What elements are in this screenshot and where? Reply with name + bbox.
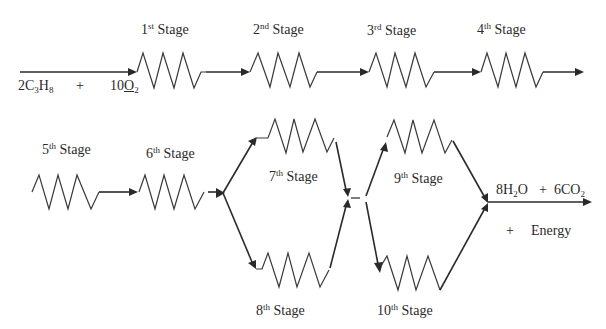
stage-label-10: 10th Stage bbox=[377, 304, 433, 318]
arrow-branch-to-8 bbox=[223, 193, 256, 269]
zigzag-stage-10 bbox=[381, 256, 440, 290]
arrow-merge-to-9 bbox=[366, 142, 388, 196]
product-arrow bbox=[488, 198, 592, 206]
reaction-diagram: 2C3H8 + 10O2 1st Stage 2nd Stage 3rd Sta… bbox=[0, 0, 606, 329]
reactant-arrow bbox=[20, 68, 137, 76]
arrow-7-to-merge bbox=[336, 142, 351, 197]
stage-label-8: 8th Stage bbox=[256, 304, 305, 318]
stage-label-3: 3rd Stage bbox=[367, 24, 416, 38]
arrow-2-3 bbox=[317, 68, 369, 76]
arrow-3-4 bbox=[434, 68, 481, 76]
arrow-4-out bbox=[543, 68, 584, 76]
zigzag-stage-5 bbox=[32, 175, 99, 209]
stage-label-5: 5th Stage bbox=[42, 143, 91, 157]
arrow-5-6 bbox=[99, 188, 138, 196]
arrow-8-to-merge bbox=[330, 199, 351, 268]
arrow-9-to-product bbox=[453, 141, 488, 203]
stage-label-4: 4th Stage bbox=[477, 23, 526, 37]
product-water: 8H2O bbox=[496, 183, 528, 197]
reactant-oxygen: 10O2 bbox=[110, 79, 139, 93]
zigzag-stage-7 bbox=[257, 119, 334, 153]
zigzag-stage-3 bbox=[369, 53, 434, 87]
arrow-10-to-product bbox=[440, 203, 488, 290]
zigzag-stage-4 bbox=[481, 53, 543, 87]
stage-label-9: 9th Stage bbox=[394, 172, 443, 186]
energy-label: Energy bbox=[531, 224, 571, 238]
arrow-merge-to-10 bbox=[366, 202, 383, 273]
stage-label-6: 6th Stage bbox=[146, 147, 195, 161]
zigzag-stage-6 bbox=[139, 175, 204, 209]
stage-label-1: 1st Stage bbox=[141, 23, 189, 37]
product-co2: 6CO2 bbox=[554, 183, 585, 197]
diagram-graphics bbox=[0, 0, 606, 329]
arrow-1-2 bbox=[206, 68, 250, 76]
zigzag-stage-8 bbox=[256, 253, 329, 287]
stage-label-7: 7th Stage bbox=[269, 170, 318, 184]
reactant-plus: + bbox=[76, 79, 84, 93]
product-plus: + bbox=[539, 183, 547, 197]
energy-plus: + bbox=[506, 224, 514, 238]
arrow-branch-to-7 bbox=[223, 137, 257, 193]
reactant-propane: 2C3H8 bbox=[18, 79, 53, 93]
zigzag-stage-1 bbox=[137, 53, 206, 88]
zigzag-stage-2 bbox=[250, 53, 317, 87]
stage-label-2: 2nd Stage bbox=[253, 23, 304, 37]
arrow-6-branch bbox=[208, 188, 225, 198]
zigzag-stage-9 bbox=[387, 120, 452, 153]
